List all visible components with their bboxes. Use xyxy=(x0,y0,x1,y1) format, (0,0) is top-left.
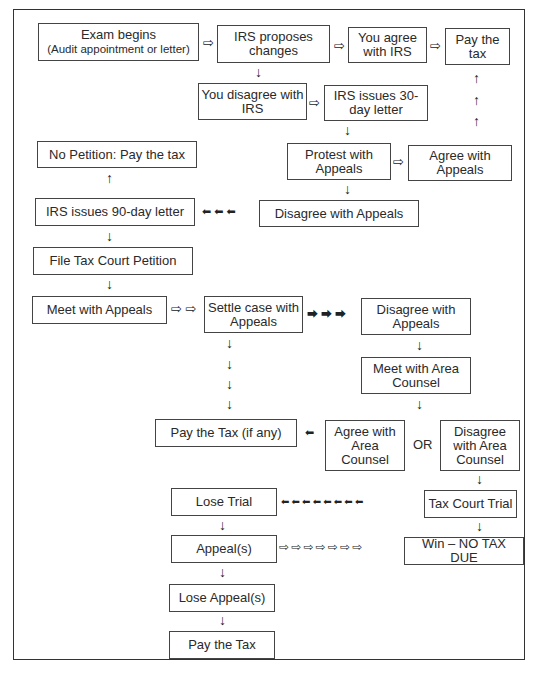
open-arrows-right-icon: ⇨ ⇨ xyxy=(171,302,196,315)
node-disagree-appeals-1: Disagree with Appeals xyxy=(259,200,419,227)
node-win: Win – NO TAX DUE xyxy=(404,537,524,565)
node-appeals: Appeal(s) xyxy=(171,535,277,563)
arrow-up-icon: ↑ xyxy=(106,172,113,185)
open-arrow-right-icon: ⇨ xyxy=(309,96,320,109)
node-pay-if-any: Pay the Tax (if any) xyxy=(155,419,297,447)
node-file-petition: File Tax Court Petition xyxy=(33,247,193,275)
node-exam-begins-label: Exam begins xyxy=(81,28,156,42)
node-irs-90day: IRS issues 90-day letter xyxy=(35,198,195,226)
node-pay-tax-top: Pay the tax xyxy=(445,28,510,65)
arrow-up-icon: ↑ xyxy=(473,115,480,128)
or-label: OR xyxy=(413,437,433,452)
arrow-up-icon: ↑ xyxy=(473,94,480,107)
arrow-down-icon: ↓ xyxy=(226,378,233,391)
arrow-down-icon: ↓ xyxy=(344,124,351,137)
solid-arrows-left-icon: ⬅ ⬅ ⬅ xyxy=(202,205,236,218)
node-pay-tax-bottom: Pay the Tax xyxy=(169,631,275,659)
node-irs-30day: IRS issues 30-day letter xyxy=(324,85,428,121)
node-meet-appeals: Meet with Appeals xyxy=(32,296,167,324)
node-disagree-appeals-2: Disagree with Appeals xyxy=(361,298,471,335)
open-arrow-right-icon: ⇨ xyxy=(393,155,404,168)
node-settle-case: Settle case with Appeals xyxy=(204,296,303,333)
node-you-agree: You agree with IRS xyxy=(348,27,427,63)
arrow-up-icon: ↑ xyxy=(473,72,480,85)
arrow-down-icon: ↓ xyxy=(226,398,233,411)
node-agree-appeals: Agree with Appeals xyxy=(408,145,512,181)
open-arrows-right-icon: ⇨ ⇨ ⇨ ⇨ ⇨ ⇨ ⇨ xyxy=(279,541,362,554)
arrow-down-icon: ↓ xyxy=(106,230,113,243)
open-arrow-right-icon: ⇨ xyxy=(430,39,441,52)
node-irs-proposes: IRS proposes changes xyxy=(217,25,330,63)
node-exam-begins: Exam begins (Audit appointment or letter… xyxy=(38,23,199,61)
arrow-down-icon: ↓ xyxy=(344,183,351,196)
node-lose-trial: Lose Trial xyxy=(171,488,277,516)
node-lose-appeals: Lose Appeal(s) xyxy=(169,584,275,612)
arrow-down-icon: ↓ xyxy=(226,337,233,350)
node-disagree-counsel: Disagree with Area Counsel xyxy=(440,420,520,471)
node-exam-begins-sub: (Audit appointment or letter) xyxy=(47,42,190,56)
arrow-down-icon: ↓ xyxy=(255,66,262,79)
arrow-down-icon: ↓ xyxy=(219,519,226,532)
solid-arrows-left-icon: ⬅ ⬅ ⬅ ⬅ ⬅ ⬅ ⬅ ⬅ xyxy=(281,495,363,508)
solid-arrows-right-icon: ⮕ ⮕ ⮕ xyxy=(307,308,346,321)
arrow-down-icon: ↓ xyxy=(416,398,423,411)
solid-arrow-left-icon: ⬅ xyxy=(305,426,314,439)
arrow-down-icon: ↓ xyxy=(476,473,483,486)
arrow-down-icon: ↓ xyxy=(219,614,226,627)
node-tax-court-trial: Tax Court Trial xyxy=(424,490,517,518)
arrow-down-icon: ↓ xyxy=(106,278,113,291)
node-protest-appeals: Protest with Appeals xyxy=(287,143,391,180)
arrow-down-icon: ↓ xyxy=(416,339,423,352)
open-arrow-right-icon: ⇨ xyxy=(334,39,345,52)
arrow-down-icon: ↓ xyxy=(476,520,483,533)
open-arrow-right-icon: ⇨ xyxy=(203,36,214,49)
arrow-down-icon: ↓ xyxy=(226,358,233,371)
node-no-petition: No Petition: Pay the tax xyxy=(37,141,197,168)
node-meet-counsel: Meet with Area Counsel xyxy=(361,357,471,394)
node-agree-counsel: Agree with Area Counsel xyxy=(325,420,405,471)
node-you-disagree: You disagree with IRS xyxy=(198,83,307,120)
arrow-down-icon: ↓ xyxy=(219,566,226,579)
